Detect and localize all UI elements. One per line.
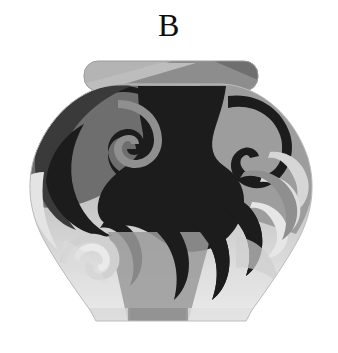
figure-root: B xyxy=(0,0,338,353)
base-strip-right xyxy=(186,308,266,328)
vase-illustration xyxy=(0,0,338,353)
vase-body xyxy=(0,60,338,353)
vase-svg xyxy=(0,0,338,353)
base-strip-left xyxy=(60,308,130,328)
base-strip-center xyxy=(128,308,188,328)
